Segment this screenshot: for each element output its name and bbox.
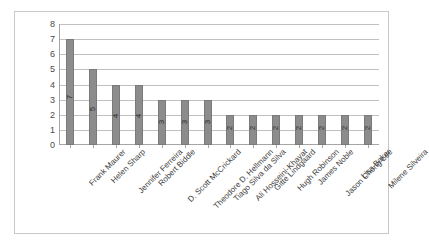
- bar[interactable]: [66, 39, 74, 145]
- y-axis-tick-2: 2: [29, 110, 55, 119]
- bar-slot: 7: [59, 24, 82, 145]
- bar-slot: 2: [333, 24, 356, 145]
- bar-slot: 5: [82, 24, 105, 145]
- bar-value-label: 2: [226, 126, 234, 130]
- x-axis-tick-mark: [368, 145, 369, 148]
- bar-value-label: 4: [112, 113, 120, 117]
- bar-slot: 2: [219, 24, 242, 145]
- y-axis-tick-4: 4: [29, 80, 55, 89]
- x-axis-tick-mark: [93, 145, 94, 148]
- bar-value-label: 2: [318, 126, 326, 130]
- y-axis-tick-0: 0: [29, 141, 55, 150]
- x-axis-tick-mark: [116, 145, 117, 148]
- x-axis-tick-mark: [276, 145, 277, 148]
- y-axis-tick-labels: 012345678: [29, 24, 55, 145]
- y-axis-tick-5: 5: [29, 65, 55, 74]
- bar-value-label: 3: [158, 120, 166, 124]
- y-axis-tick-1: 1: [29, 125, 55, 134]
- bar-slot: 2: [265, 24, 288, 145]
- bar-slot: 4: [128, 24, 151, 145]
- bar-value-label: 3: [204, 120, 212, 124]
- bar-slot: 3: [196, 24, 219, 145]
- x-axis-tick-mark: [230, 145, 231, 148]
- x-axis-category-labels: Frank MaurerHelen SharpJennifer Ferreira…: [59, 148, 379, 233]
- chart-frame: 012345678 75443332222222 Frank MaurerHel…: [14, 11, 389, 234]
- bar-series: 75443332222222: [59, 24, 379, 145]
- x-axis-tick-mark: [253, 145, 254, 148]
- bar-value-label: 3: [181, 120, 189, 124]
- bar-value-label: 5: [89, 107, 97, 111]
- y-axis-tick-7: 7: [29, 35, 55, 44]
- x-axis-label: Lisa Baker: [360, 148, 392, 180]
- bar-value-label: 2: [249, 126, 257, 130]
- bar-value-label: 7: [66, 94, 74, 98]
- bar-value-label: 2: [272, 126, 280, 130]
- bar-value-label: 2: [364, 126, 372, 130]
- x-axis-tick-mark: [162, 145, 163, 148]
- x-axis-tick-mark: [299, 145, 300, 148]
- y-axis-tick-8: 8: [29, 20, 55, 29]
- x-axis-tick-mark: [208, 145, 209, 148]
- x-axis-tick-mark: [185, 145, 186, 148]
- bar-value-label: 2: [341, 126, 349, 130]
- bar-value-label: 2: [295, 126, 303, 130]
- x-axis-tick-mark: [322, 145, 323, 148]
- x-axis-label: Theodore D. Hellmann: [212, 148, 275, 211]
- bar-slot: 2: [356, 24, 379, 145]
- chart-plot-wrapper: 012345678 75443332222222 Frank MaurerHel…: [15, 12, 388, 233]
- x-axis-tick-mark: [345, 145, 346, 148]
- x-axis-tick-mark: [139, 145, 140, 148]
- x-axis-tick-mark: [70, 145, 71, 148]
- bar-slot: 2: [288, 24, 311, 145]
- bar-slot: 2: [310, 24, 333, 145]
- bar-slot: 3: [150, 24, 173, 145]
- y-axis-tick-6: 6: [29, 50, 55, 59]
- bar-slot: 2: [242, 24, 265, 145]
- bar-value-label: 4: [135, 113, 143, 117]
- y-axis-tick-3: 3: [29, 95, 55, 104]
- bar-slot: 4: [105, 24, 128, 145]
- plot-area: 75443332222222: [59, 24, 379, 145]
- bar-slot: 3: [173, 24, 196, 145]
